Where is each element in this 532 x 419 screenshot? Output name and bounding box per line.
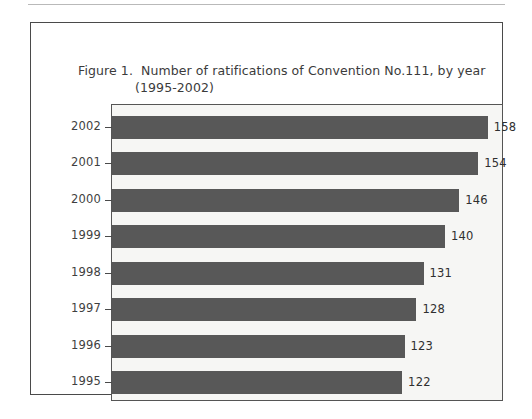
chart-bar-row: 2000146 <box>112 183 502 220</box>
y-axis-label: 1999 <box>71 228 101 242</box>
bar <box>112 225 445 248</box>
figure-caption-line1: Number of ratifications of Convention No… <box>141 62 486 79</box>
chart-bar-row: 1998131 <box>112 256 502 293</box>
figure-container: Figure 1. Number of ratifications of Con… <box>30 22 503 395</box>
y-axis-tick <box>105 382 112 383</box>
y-axis-tick <box>105 127 112 128</box>
chart-bar-row: 1996123 <box>112 329 502 366</box>
chart-bar-row: 1997128 <box>112 292 502 329</box>
figure-caption-label: Figure 1. <box>78 62 133 79</box>
y-axis-tick <box>105 236 112 237</box>
y-axis-label: 1996 <box>71 338 101 352</box>
chart-bar-row: 2001154 <box>112 146 502 183</box>
bar-value-label: 158 <box>494 120 517 134</box>
bar-value-label: 154 <box>484 156 507 170</box>
figure-caption-line2: (1995-2002) <box>135 79 214 96</box>
bar <box>112 335 405 358</box>
y-axis-tick <box>105 346 112 347</box>
y-axis-label: 1997 <box>71 301 101 315</box>
figure-caption: Figure 1. Number of ratifications of Con… <box>78 62 508 96</box>
chart-bar-row: 1995122 <box>112 365 502 402</box>
bar-value-label: 122 <box>408 375 431 389</box>
bar <box>112 116 488 139</box>
bar-value-label: 146 <box>465 193 488 207</box>
chart-plot-area: 2002158200115420001461999140199813119971… <box>111 104 503 401</box>
figure-page: Figure 1. Number of ratifications of Con… <box>0 0 532 419</box>
y-axis-label: 2002 <box>71 119 101 133</box>
y-axis-tick <box>105 309 112 310</box>
bar <box>112 371 402 394</box>
y-axis-tick <box>105 163 112 164</box>
y-axis-tick <box>105 200 112 201</box>
bar <box>112 298 416 321</box>
y-axis-label: 2001 <box>71 155 101 169</box>
y-axis-label: 1995 <box>71 374 101 388</box>
chart-rows: 2002158200115420001461999140199813119971… <box>112 105 502 400</box>
bar-value-label: 140 <box>451 229 474 243</box>
chart-bar-row: 2002158 <box>112 110 502 147</box>
bar-value-label: 123 <box>411 339 434 353</box>
y-axis-tick <box>105 273 112 274</box>
y-axis-label: 2000 <box>71 192 101 206</box>
chart-bar-row: 1999140 <box>112 219 502 256</box>
bar <box>112 262 424 285</box>
bar <box>112 152 478 175</box>
y-axis-label: 1998 <box>71 265 101 279</box>
page-top-rule <box>28 4 505 5</box>
bar-value-label: 128 <box>422 302 445 316</box>
bar-value-label: 131 <box>430 266 453 280</box>
bar <box>112 189 459 212</box>
